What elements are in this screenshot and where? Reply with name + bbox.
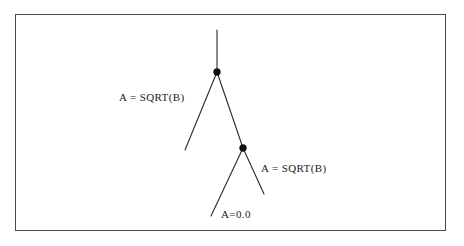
- label-left-branch: A = SQRT(B): [119, 92, 185, 103]
- label-right-branch: A = SQRT(B): [261, 163, 327, 174]
- edge-upper-right-branch: [217, 72, 243, 148]
- upper-node-dot: [214, 69, 221, 76]
- figure-canvas: A = SQRT(B) A = SQRT(B) A=0.0: [0, 0, 464, 246]
- edge-upper-left-branch: [185, 72, 217, 150]
- label-bottom-branch: A=0.0: [221, 209, 251, 220]
- lower-node-dot: [240, 145, 247, 152]
- edge-lower-left-branch: [211, 148, 243, 216]
